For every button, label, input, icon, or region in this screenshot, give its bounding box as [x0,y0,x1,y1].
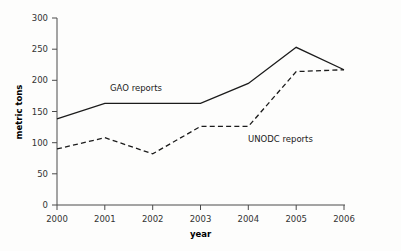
x-axis-title: year [190,229,212,239]
series-line-gao-reports [57,47,344,119]
y-tick-label: 250 [32,44,48,54]
y-tick-label: 150 [32,107,48,117]
x-tick-label: 2001 [94,214,116,224]
x-tick-label: 2003 [190,214,212,224]
x-tick-label: 2002 [142,214,164,224]
line-chart: 300 250 200 150 100 50 0 2000 2001 2002 … [0,0,401,251]
x-tick-label: 2006 [333,214,355,224]
y-tick-label: 50 [37,169,48,179]
y-tick-label: 300 [32,13,48,23]
y-tick-label: 0 [43,200,48,210]
series-label-gao-reports: GAO reports [110,83,163,93]
x-tick-label: 2004 [237,214,259,224]
series-label-unodc-reports: UNODC reports [248,134,313,144]
x-axis-ticks [57,205,344,210]
x-tick-label: 2000 [46,214,68,224]
y-axis-ticks [52,18,57,205]
y-tick-label: 200 [32,75,48,85]
chart-canvas: 300 250 200 150 100 50 0 2000 2001 2002 … [0,0,401,251]
y-axis-tick-labels: 300 250 200 150 100 50 0 [32,13,48,210]
y-tick-label: 100 [32,138,48,148]
x-axis-tick-labels: 2000 2001 2002 2003 2004 2005 2006 [46,214,355,224]
x-tick-label: 2005 [285,214,307,224]
y-axis-title: metric tons [14,85,24,140]
